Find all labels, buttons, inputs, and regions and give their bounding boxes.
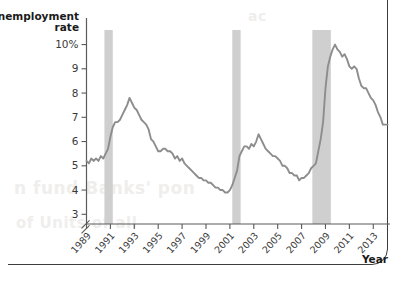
x-tick-label: 2001 (212, 230, 236, 255)
recession-bands-group (104, 30, 330, 224)
x-tick-label: 1991 (93, 230, 117, 255)
x-tick-labels-group: 1989199119931995199719992001200320052007… (69, 230, 380, 255)
x-tick-label: 1997 (164, 230, 188, 255)
y-tick-label: 4 (72, 184, 79, 196)
x-tick-label: 2007 (284, 230, 308, 255)
unemployment-rate-line-chart: 345678910% 19891991199319951997199920012… (0, 0, 405, 291)
x-tick-label: 1999 (188, 230, 212, 255)
y-tick-label: 9 (72, 62, 79, 74)
y-tick-label: 6 (72, 135, 79, 147)
x-tick-label: 2011 (332, 230, 356, 255)
x-axis-title: Year (361, 253, 389, 265)
y-tick-label: 3 (72, 208, 79, 220)
x-tick-label: 1995 (140, 230, 164, 255)
x-tick-label: 1989 (69, 230, 93, 255)
y-tick-label: 5 (72, 159, 79, 171)
x-tick-label: 2013 (355, 230, 379, 255)
x-tick-label: 2003 (236, 230, 260, 255)
y-tick-labels-group: 345678910% (55, 38, 79, 220)
recession-band (232, 30, 240, 224)
figure-container: n fund Banks' pon of Units of all ac 345… (0, 0, 405, 291)
x-tick-label: 2005 (260, 230, 284, 255)
x-tick-label: 2009 (308, 230, 332, 255)
x-tick-label: 1993 (116, 230, 140, 255)
y-tick-label: 10% (55, 38, 78, 50)
recession-band (104, 30, 112, 224)
y-axis-title-line2: rate (55, 21, 79, 33)
y-tick-label: 8 (72, 87, 79, 99)
y-tick-label: 7 (72, 111, 79, 123)
